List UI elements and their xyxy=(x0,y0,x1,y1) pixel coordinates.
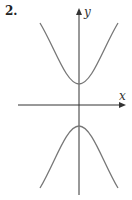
x-axis-label: x xyxy=(119,89,126,103)
y-axis-label: y xyxy=(83,5,91,19)
y-axis-arrow-icon xyxy=(76,8,82,15)
hyperbola-plot: y x xyxy=(0,0,132,200)
